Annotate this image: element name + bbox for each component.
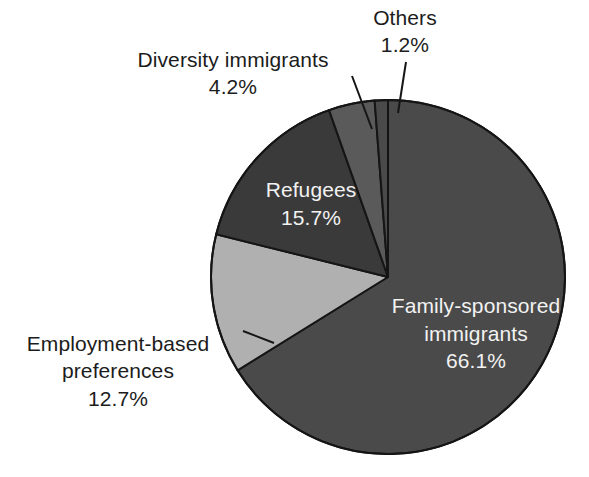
slice-label-refugees: Refugees 15.7% [236, 176, 386, 231]
slice-label-others: Others 1.2% [340, 4, 470, 59]
slice-label-employment-based-preferences: Employment-based preferences 12.7% [2, 330, 234, 412]
pie-chart: Others 1.2% Diversity immigrants 4.2% Em… [0, 0, 589, 477]
pie-slice-group [211, 100, 565, 454]
slice-label-diversity-immigrants: Diversity immigrants 4.2% [118, 46, 348, 101]
slice-label-family-sponsored-immigrants: Family-sponsored immigrants 66.1% [378, 292, 574, 375]
